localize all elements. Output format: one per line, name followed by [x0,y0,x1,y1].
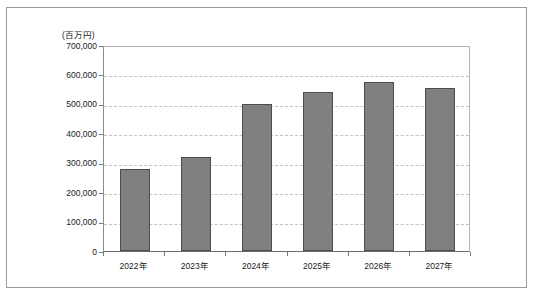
y-axis-unit-label: (百万円) [62,28,95,40]
bar [425,88,455,251]
x-axis-tick-mark [225,252,226,256]
bar [242,104,272,251]
y-axis-tick-label: 300,000 [66,158,97,168]
x-axis-tick-label: 2026年 [348,259,409,271]
x-axis-tick-label: 2027年 [409,259,470,271]
chart-figure: (百万円) 0100,000200,000300,000400,000500,0… [0,0,534,296]
y-axis-tick-label: 200,000 [66,188,97,198]
y-axis-tick-label: 700,000 [66,41,97,51]
y-axis-tick-label: 500,000 [66,99,97,109]
x-axis-tick-mark [409,252,410,256]
plot-area [103,46,470,252]
y-axis-tick-label: 600,000 [66,70,97,80]
bar [303,92,333,251]
x-axis-tick-mark [103,252,104,256]
x-axis-tick-mark [348,252,349,256]
y-axis-tick-label: 400,000 [66,129,97,139]
x-axis-tick-label: 2025年 [287,259,348,271]
bar-series [104,47,469,251]
bar [364,82,394,251]
bar [120,169,150,251]
x-axis-tick-label: 2024年 [225,259,286,271]
x-axis-tick-mark [164,252,165,256]
x-axis-tick-mark [470,252,471,256]
x-axis-tick-label: 2023年 [164,259,225,271]
x-axis-tick-mark [287,252,288,256]
y-axis-tick-label: 0 [92,247,97,257]
x-axis-tick-label: 2022年 [103,259,164,271]
y-axis-tick-label: 100,000 [66,217,97,227]
bar [181,157,211,251]
